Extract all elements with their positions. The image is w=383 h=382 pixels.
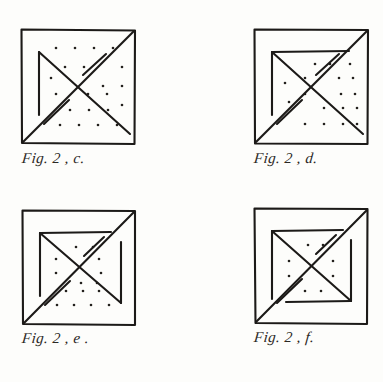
figure-d-drawing xyxy=(253,28,371,146)
inner-horizontal-bottom xyxy=(286,301,351,302)
broken-diagonal-lower xyxy=(272,231,351,301)
inner-horizontal-top xyxy=(40,232,111,233)
figure-f-drawing xyxy=(253,207,371,325)
caption-fig-2-e: Fig. 2 , e . xyxy=(21,330,90,347)
figure-panel-c xyxy=(20,28,138,146)
broken-diagonal-lower xyxy=(40,233,121,303)
figure-panel-e xyxy=(21,209,139,327)
broken-diagonal-extra xyxy=(44,100,69,124)
broken-diagonal-lower xyxy=(39,52,130,134)
dot-grid xyxy=(55,246,111,307)
figure-c-drawing xyxy=(20,28,138,146)
broken-diagonal-extra xyxy=(45,281,70,305)
broken-diagonal-extra xyxy=(277,279,302,303)
caption-fig-2-d: Fig. 2 , d. xyxy=(253,150,319,167)
inner-horizontal-top xyxy=(272,51,349,52)
dot-grid xyxy=(50,47,124,127)
figure-panel-f xyxy=(253,207,371,325)
figure-e-drawing xyxy=(21,209,139,327)
figure-panel-d xyxy=(253,28,371,146)
broken-diagonal-extra xyxy=(277,100,302,124)
inner-horizontal-top xyxy=(272,230,343,231)
figure-sheet: Fig. 2 , c. xyxy=(0,0,383,382)
caption-fig-2-c: Fig. 2 , c. xyxy=(21,150,86,167)
caption-fig-2-f: Fig. 2 , f. xyxy=(253,329,315,346)
